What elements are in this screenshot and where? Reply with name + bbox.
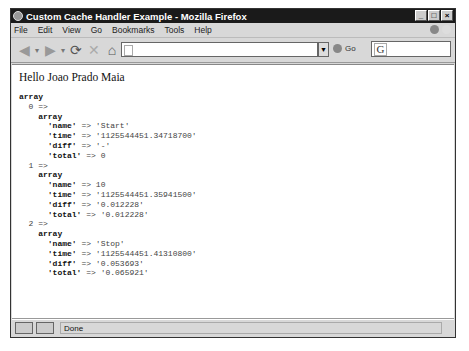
minimize-button[interactable]: _ xyxy=(415,10,427,21)
stop-button[interactable]: ✕ xyxy=(85,42,103,58)
resize-grip-icon[interactable] xyxy=(442,322,454,334)
page-icon xyxy=(124,45,133,56)
back-dropdown-icon[interactable]: ▾ xyxy=(35,46,39,55)
status-bar: Done xyxy=(12,318,454,336)
offline-icon[interactable] xyxy=(15,322,33,334)
menu-help[interactable]: Help xyxy=(194,25,211,35)
var-dump: array 0 => array 'name' => 'Start' 'time… xyxy=(19,92,454,278)
browser-window: Custom Cache Handler Example - Mozilla F… xyxy=(10,8,456,338)
status-text: Done xyxy=(60,322,442,334)
home-button[interactable]: ⌂ xyxy=(103,42,121,58)
menu-view[interactable]: View xyxy=(62,25,80,35)
menu-edit[interactable]: Edit xyxy=(38,25,53,35)
search-engine-icon[interactable]: G xyxy=(374,43,387,56)
back-button[interactable]: ◀ xyxy=(15,42,33,58)
dump-heading: array xyxy=(19,92,43,101)
window-title: Custom Cache Handler Example - Mozilla F… xyxy=(26,11,247,22)
page-content: Hello Joao Prado Maia array 0 => array '… xyxy=(12,64,454,320)
greeting-text: Hello Joao Prado Maia xyxy=(19,71,454,83)
menu-file[interactable]: File xyxy=(14,25,28,35)
url-history-dropdown[interactable]: ▼ xyxy=(318,42,329,57)
close-button[interactable]: × xyxy=(441,10,453,21)
search-input[interactable]: G xyxy=(371,41,451,57)
go-button[interactable]: Go xyxy=(333,44,356,53)
navigation-toolbar: ◀ ▾ ▶ ▾ ⟳ ✕ ⌂ ▼ Go G xyxy=(11,38,455,63)
forward-button[interactable]: ▶ xyxy=(41,42,59,58)
activity-icon xyxy=(442,25,451,34)
title-bar: Custom Cache Handler Example - Mozilla F… xyxy=(11,9,455,23)
menu-go[interactable]: Go xyxy=(91,25,102,35)
throbber-icon xyxy=(430,25,439,34)
go-icon xyxy=(333,44,342,53)
url-input[interactable] xyxy=(121,42,318,57)
menu-bar: File Edit View Go Bookmarks Tools Help xyxy=(11,23,455,38)
connection-icon[interactable] xyxy=(36,322,54,334)
maximize-button[interactable]: □ xyxy=(428,10,440,21)
forward-dropdown-icon[interactable]: ▾ xyxy=(61,46,65,55)
reload-button[interactable]: ⟳ xyxy=(67,42,85,58)
menu-bookmarks[interactable]: Bookmarks xyxy=(112,25,155,35)
firefox-icon xyxy=(13,11,23,21)
menu-tools[interactable]: Tools xyxy=(165,25,185,35)
